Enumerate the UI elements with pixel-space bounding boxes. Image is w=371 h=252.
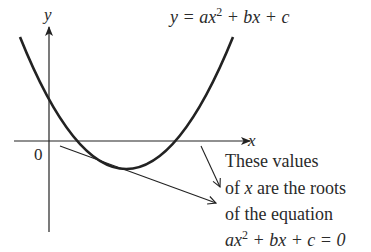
origin-label: 0 xyxy=(34,145,43,164)
annotation-line-3: of the equation xyxy=(225,204,333,224)
annotation-line-1: These values xyxy=(225,151,318,171)
y-axis-label: y xyxy=(42,5,52,24)
parabola-curve xyxy=(20,37,233,169)
pointer-arrow-right-root xyxy=(201,146,220,187)
annotation-line-4: ax2 + bx + c = 0 xyxy=(225,228,345,250)
annotation-line-2: of x are the roots xyxy=(225,178,346,198)
pointer-arrow-left-root xyxy=(60,146,216,203)
equation-label: y = ax2 + bx + c xyxy=(168,5,289,27)
x-axis-label: x xyxy=(247,131,256,150)
quadratic-diagram: y x 0 y = ax2 + bx + c These values of x… xyxy=(0,0,371,252)
